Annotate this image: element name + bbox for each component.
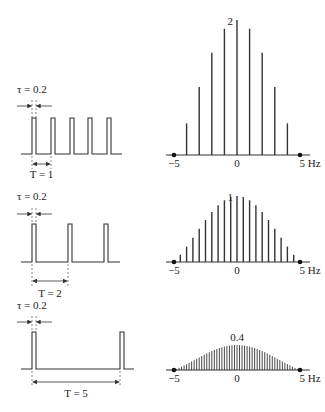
row-2: τ = 0.2T = 2−505 Hz1 <box>17 190 321 299</box>
period-label: T = 5 <box>64 387 88 399</box>
pulse-train: τ = 0.2T = 2 <box>17 190 120 299</box>
axis-label-min: −5 <box>168 157 180 169</box>
peak-value-label: 1 <box>228 191 234 203</box>
pulse-train: τ = 0.2T = 1 <box>17 83 122 180</box>
period-label: T = 1 <box>30 168 54 180</box>
pulse-train: τ = 0.2T = 5 <box>17 299 134 399</box>
axis-label-min: −5 <box>168 372 180 384</box>
pulse-waveform <box>21 118 122 154</box>
line-spectrum: −505 Hz1 <box>166 191 321 276</box>
line-spectrum: −505 Hz0.4 <box>166 331 321 384</box>
axis-label-zero: 0 <box>234 264 240 276</box>
period-label: T = 2 <box>38 287 62 299</box>
axis-label-zero: 0 <box>234 157 240 169</box>
axis-label-max: 5 Hz <box>299 157 320 169</box>
axis-label-max: 5 Hz <box>299 372 320 384</box>
pulse-waveform <box>21 224 120 262</box>
tau-label: τ = 0.2 <box>17 190 47 202</box>
row-3: τ = 0.2T = 5−505 Hz0.4 <box>17 299 321 399</box>
tau-label: τ = 0.2 <box>17 299 47 311</box>
line-spectrum: −505 Hz2 <box>166 15 321 169</box>
row-1: τ = 0.2T = 1−505 Hz2 <box>17 15 321 180</box>
tau-label: τ = 0.2 <box>17 83 47 95</box>
peak-value-label: 2 <box>228 15 234 27</box>
axis-label-zero: 0 <box>234 372 240 384</box>
pulse-train-spectra-figure: τ = 0.2T = 1−505 Hz2τ = 0.2T = 2−505 Hz1… <box>0 0 325 412</box>
pulse-waveform <box>21 332 134 369</box>
peak-value-label: 0.4 <box>230 331 244 343</box>
axis-label-max: 5 Hz <box>299 264 320 276</box>
axis-label-min: −5 <box>168 264 180 276</box>
